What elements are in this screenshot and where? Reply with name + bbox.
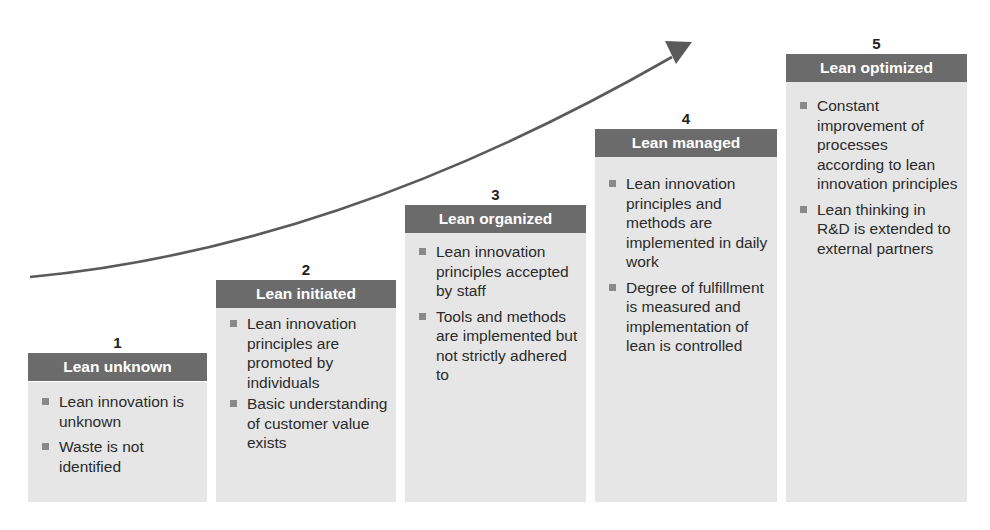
stage-bullet: Lean thinking in R&D is extended to exte… xyxy=(800,200,959,259)
stage-2: 2 Lean initiated Lean innovation princip… xyxy=(216,261,396,502)
stage-body: Lean innovation principles are promoted … xyxy=(216,308,396,502)
stage-3: 3 Lean organized Lean innovation princip… xyxy=(405,186,586,502)
stage-title: Lean initiated xyxy=(216,280,396,308)
stage-title: Lean optimized xyxy=(786,54,967,82)
stage-bullet: Lean innovation principles are promoted … xyxy=(230,314,388,392)
stage-bullet: Lean innovation is unknown xyxy=(42,392,199,431)
stage-number: 5 xyxy=(786,35,967,52)
stage-bullet: Waste is not identified xyxy=(42,437,199,476)
stage-1: 1 Lean unknown Lean innovation is unknow… xyxy=(28,334,207,502)
stage-body: Lean innovation principles accepted by s… xyxy=(405,233,586,502)
stage-title: Lean organized xyxy=(405,205,586,233)
stage-bullet: Lean innovation principles and methods a… xyxy=(609,174,769,272)
stage-5: 5 Lean optimized Constant improvement of… xyxy=(786,35,967,502)
stage-number: 1 xyxy=(28,334,207,351)
stage-body: Lean innovation is unknown Waste is not … xyxy=(28,382,207,502)
stage-4: 4 Lean managed Lean innovation principle… xyxy=(595,110,777,502)
stage-body: Lean innovation principles and methods a… xyxy=(595,157,777,502)
stage-bullet: Degree of fulfillment is measured and im… xyxy=(609,278,769,356)
stage-bullet: Lean innovation principles accepted by s… xyxy=(419,242,578,301)
stage-bullet: Constant improvement of processes accord… xyxy=(800,96,959,194)
stage-title: Lean unknown xyxy=(28,353,207,381)
stage-title: Lean managed xyxy=(595,129,777,157)
stage-number: 3 xyxy=(405,186,586,203)
stage-number: 4 xyxy=(595,110,777,127)
stage-body: Constant improvement of processes accord… xyxy=(786,82,967,502)
stage-bullet: Tools and methods are implemented but no… xyxy=(419,307,578,385)
stage-number: 2 xyxy=(216,261,396,278)
stage-bullet: Basic understanding of customer value ex… xyxy=(230,394,388,453)
